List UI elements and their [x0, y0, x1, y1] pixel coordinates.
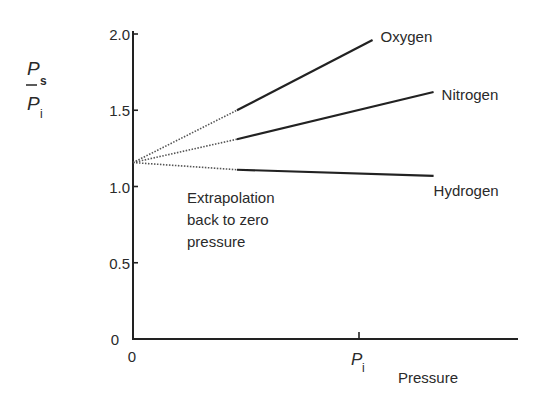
chart: 00.51.01.52.00Pi OxygenNitrogenHydrogen … [0, 0, 544, 405]
labels: OxygenNitrogenHydrogen [381, 28, 499, 199]
y-label-denominator-sub: i [40, 107, 43, 121]
extrapolation-annotation: Extrapolation back to zero pressure [187, 189, 275, 250]
oxygen-label: Oxygen [381, 28, 433, 45]
y-label-numerator-sub: s [40, 74, 47, 88]
y-tick-label: 1.5 [109, 102, 130, 119]
nitrogen-extrapolated-line [133, 139, 237, 162]
x-tick-label: 0 [128, 348, 136, 365]
y-tick-label: 2.0 [109, 26, 130, 43]
x-tick-label-sub: i [362, 361, 365, 375]
x-axis-label: Pressure [398, 369, 458, 386]
hydrogen-label: Hydrogen [434, 182, 499, 199]
annotation-line-3: pressure [187, 233, 245, 250]
y-tick-label: 0 [111, 331, 119, 348]
hydrogen-measured-line [237, 170, 434, 176]
y-label-denominator: P [27, 93, 40, 114]
annotation-line-2: back to zero [187, 211, 269, 228]
oxygen-measured-line [237, 40, 373, 110]
y-axis-label: P s P i [26, 58, 47, 121]
y-tick-label: 0.5 [109, 255, 130, 272]
oxygen-extrapolated-line [133, 110, 237, 162]
annotation-line-1: Extrapolation [187, 189, 275, 206]
nitrogen-label: Nitrogen [442, 86, 499, 103]
y-label-numerator: P [27, 58, 40, 79]
series-lines [133, 40, 434, 176]
nitrogen-measured-line [237, 92, 434, 139]
hydrogen-extrapolated-line [133, 163, 237, 170]
y-tick-label: 1.0 [109, 179, 130, 196]
